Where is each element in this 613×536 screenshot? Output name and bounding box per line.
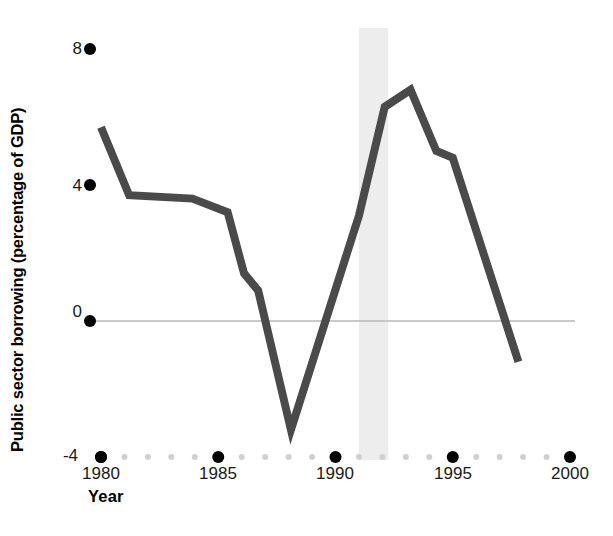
x-minor-tick-dot [403, 454, 409, 460]
x-minor-tick-dot [239, 454, 245, 460]
y-major-tick-dot [84, 179, 96, 191]
x-major-tick-dot [564, 451, 576, 463]
y-major-tick-dots [84, 43, 107, 463]
recession-band [359, 28, 388, 460]
x-major-tick-dots [95, 451, 576, 463]
x-minor-tick-dot [121, 454, 127, 460]
x-minor-tick-dot [379, 454, 385, 460]
plot-area [0, 0, 613, 536]
x-minor-tick-dot [497, 454, 503, 460]
x-minor-tick-dot [426, 454, 432, 460]
chart-container: Public sector borrowing (percentage of G… [0, 0, 613, 536]
x-minor-tick-dot [168, 454, 174, 460]
x-minor-tick-dot [145, 454, 151, 460]
x-major-tick-dot [212, 451, 224, 463]
x-minor-tick-dot [309, 454, 315, 460]
x-minor-tick-dot [262, 454, 268, 460]
x-major-tick-dot [447, 451, 459, 463]
y-major-tick-dot [84, 315, 96, 327]
x-major-tick-dot [330, 451, 342, 463]
x-minor-tick-dot [473, 454, 479, 460]
data-line-public-sector-borrowing [101, 90, 518, 430]
x-minor-tick-dot [544, 454, 550, 460]
y-major-tick-dot [95, 451, 107, 463]
y-major-tick-dot [84, 43, 96, 55]
shaded-band-group [359, 28, 388, 460]
x-minor-tick-dot [286, 454, 292, 460]
x-minor-tick-dot [356, 454, 362, 460]
x-minor-tick-dot [520, 454, 526, 460]
x-minor-tick-dot [192, 454, 198, 460]
data-series-group [101, 90, 518, 430]
